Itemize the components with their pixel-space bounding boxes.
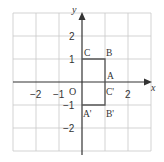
point-label-B-prime: B' xyxy=(106,109,114,119)
x-tick-label: −1 xyxy=(53,89,65,100)
rectangle-upper xyxy=(82,59,105,82)
point-label-A: A xyxy=(107,71,114,81)
rectangle-lower xyxy=(82,82,105,105)
coordinate-diagram: x y O −2 −1 2 2 1 −1 −2 C B A C' A' B' xyxy=(0,0,164,162)
x-tick-label: 2 xyxy=(125,89,131,100)
point-label-B: B xyxy=(106,48,112,58)
point-label-C-prime: C' xyxy=(106,87,114,97)
axes xyxy=(13,19,146,155)
origin-label: O xyxy=(69,86,76,97)
coordinate-plane: x y O −2 −1 2 2 1 −1 −2 C B A C' A' B' xyxy=(0,0,164,162)
x-tick-label: −2 xyxy=(30,89,42,100)
y-tick-label: 2 xyxy=(69,31,75,42)
y-tick-label: 1 xyxy=(69,54,75,65)
point-label-C: C xyxy=(84,48,90,58)
y-tick-label: −1 xyxy=(63,100,75,111)
point-label-A-prime: A' xyxy=(83,109,92,119)
y-tick-label: −2 xyxy=(63,123,75,134)
x-axis-label: x xyxy=(150,82,156,93)
y-axis-label: y xyxy=(71,4,77,15)
